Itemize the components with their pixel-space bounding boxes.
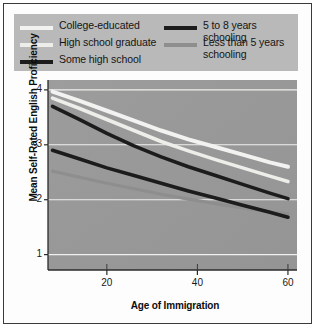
- chart-figure: College-educated High school graduate So…: [0, 0, 315, 327]
- plot-area-container: Mean Self-Rated English Proficiency Age …: [0, 0, 315, 327]
- plot-texture: [48, 80, 297, 270]
- x-tick-label: 60: [276, 277, 300, 288]
- x-tick-label: 40: [185, 277, 209, 288]
- y-tick-label: 2: [26, 193, 42, 204]
- x-axis-label: Age of Immigration: [45, 300, 305, 311]
- x-tick-label: 20: [95, 277, 119, 288]
- y-tick-label: 3: [26, 138, 42, 149]
- y-tick-label: 4: [26, 83, 42, 94]
- y-tick-label: 1: [26, 248, 42, 259]
- plot-svg: [0, 0, 315, 327]
- y-axis-label: Mean Self-Rated English Proficiency: [28, 23, 39, 213]
